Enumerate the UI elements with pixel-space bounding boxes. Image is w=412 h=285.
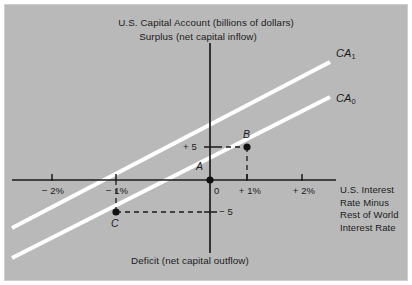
x-axis-label-line-4: Interest Rate [340,222,399,235]
curve-label-ca1: CA1 [336,46,356,60]
curve-label-ca0-base: CA [336,92,351,104]
x-axis-label-line-3: Rest of World [340,209,399,222]
x-tick-label-zero: 0 [214,185,219,197]
x-tick-label-neg2: − 2% [42,185,64,197]
y-tick-label-pos5: + 5 [183,141,197,153]
x-tick-label-pos2: + 2% [293,185,315,197]
x-tick-label-neg1: − 1% [106,185,128,197]
y-axis-negative-label: Deficit (net capital outflow) [131,255,249,268]
curve-ca1 [12,62,330,228]
chart-title-line1: U.S. Capital Account (billions of dollar… [118,17,294,30]
curve-label-ca1-base: CA [336,47,351,59]
capital-account-figure: U.S. Capital Account (billions of dollar… [0,0,412,285]
y-tick-label-neg5: − 5 [219,206,233,218]
data-point-c [112,208,119,215]
data-point-label-c: C [111,217,119,230]
x-axis-label-line-2: Rate Minus [340,197,399,210]
data-point-label-a: A [196,160,203,173]
x-axis-label-line-1: U.S. Interest [340,184,399,197]
curve-ca0 [12,97,330,258]
data-point-label-b: B [243,128,250,141]
x-axis-label-block: U.S. Interest Rate Minus Rest of World I… [340,184,399,235]
y-axis-positive-label: Surplus (net capital inflow) [139,31,257,44]
curve-label-ca0-subscript: 0 [351,97,355,106]
curve-label-ca0: CA0 [336,91,356,105]
data-point-b [243,143,250,150]
curve-label-ca1-subscript: 1 [351,52,355,61]
x-tick-label-pos1: + 1% [239,185,261,197]
data-point-a [206,176,213,183]
